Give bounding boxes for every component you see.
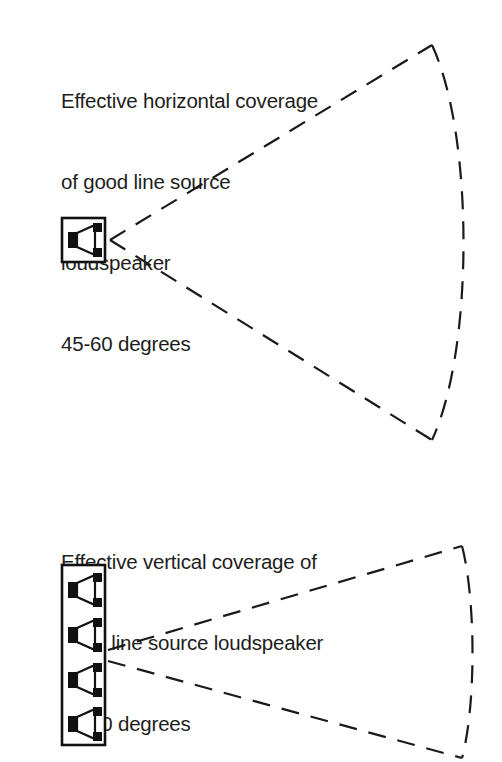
caption-line: 45-60 degrees bbox=[61, 330, 318, 357]
caption-line: Effective horizontal coverage bbox=[61, 87, 318, 114]
horizontal-coverage-panel: Effective horizontal coverage of good li… bbox=[0, 0, 502, 470]
caption-line: Effective vertical coverage of bbox=[61, 548, 323, 575]
caption-line: good line source loudspeaker bbox=[61, 629, 323, 656]
horizontal-coverage-caption: Effective horizontal coverage of good li… bbox=[61, 33, 318, 411]
caption-line: of good line source bbox=[61, 168, 318, 195]
caption-line: 25-30 degrees bbox=[61, 710, 323, 737]
caption-line: loudspeaker bbox=[61, 249, 318, 276]
vertical-coverage-caption: Effective vertical coverage of good line… bbox=[61, 494, 323, 762]
